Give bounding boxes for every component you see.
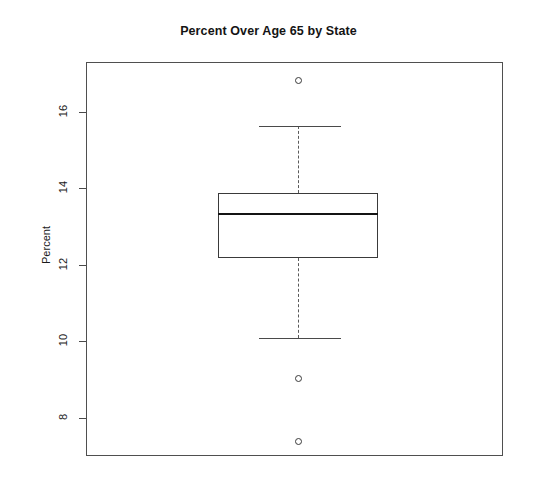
y-tick-mark (79, 341, 86, 342)
upper-whisker-line (298, 126, 299, 193)
outlier-point (295, 77, 302, 84)
y-tick-label: 16 (57, 99, 69, 123)
y-tick-label: 8 (57, 405, 69, 429)
y-tick-mark (79, 188, 86, 189)
boxplot-series (87, 63, 502, 455)
y-tick-label: 12 (57, 252, 69, 276)
median-line (218, 213, 378, 215)
lower-whisker-line (298, 258, 299, 338)
lower-whisker-cap (259, 338, 341, 339)
boxplot-figure: Percent Over Age 65 by State Percent 161… (0, 0, 537, 492)
y-tick-mark (79, 418, 86, 419)
outlier-point (295, 375, 302, 382)
y-axis-label: Percent (40, 215, 52, 275)
y-tick-mark (79, 112, 86, 113)
y-tick-label: 10 (57, 328, 69, 352)
outlier-point (295, 438, 302, 445)
y-tick-label: 14 (57, 175, 69, 199)
y-tick-mark (79, 265, 86, 266)
box-iqr (218, 193, 378, 258)
plot-area (86, 62, 503, 456)
page-title: Percent Over Age 65 by State (0, 24, 537, 38)
upper-whisker-cap (259, 126, 341, 127)
